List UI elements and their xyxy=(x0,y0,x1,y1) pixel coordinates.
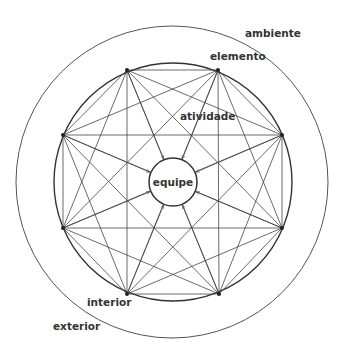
vertex-dot xyxy=(217,292,221,296)
team-element-diagram: ambiente elemento atividade equipe inter… xyxy=(0,0,344,360)
label-interior: interior xyxy=(87,296,132,308)
connection-line xyxy=(63,228,127,294)
connection-line xyxy=(63,70,218,228)
vertex-dot xyxy=(216,68,220,72)
label-ambiente: ambiente xyxy=(245,27,301,39)
vertex-dot xyxy=(61,226,65,230)
vertex-dot xyxy=(125,68,129,72)
label-exterior: exterior xyxy=(53,320,101,332)
connection-line xyxy=(63,135,219,294)
connection-line xyxy=(127,70,282,228)
label-equipe: equipe xyxy=(153,176,193,188)
connection-line xyxy=(63,70,127,135)
label-atividade: atividade xyxy=(180,110,235,122)
connection-line xyxy=(127,135,282,294)
connection-line xyxy=(218,70,219,294)
label-elemento: elemento xyxy=(210,50,266,62)
connection-line xyxy=(219,228,282,294)
vertex-dot xyxy=(61,133,65,137)
vertex-dot xyxy=(280,133,284,137)
vertex-dot xyxy=(280,226,284,230)
connection-line xyxy=(218,70,282,135)
